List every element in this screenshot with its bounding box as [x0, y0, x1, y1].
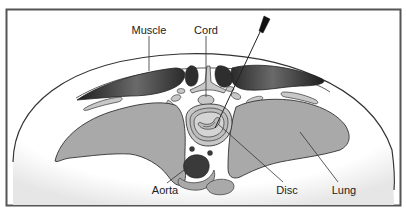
- aorta: [184, 155, 210, 178]
- label-disc: Disc: [276, 184, 298, 196]
- label-aorta: Aorta: [152, 184, 179, 196]
- cross-section-diagram: Muscle Cord Aorta Disc Lung: [0, 0, 406, 212]
- rib-fragment: [177, 89, 185, 94]
- intervertebral-disc: [186, 104, 232, 146]
- label-muscle: Muscle: [132, 24, 167, 36]
- esophagus: [207, 179, 235, 195]
- label-lung: Lung: [332, 184, 356, 196]
- vessel-dot: [208, 151, 213, 156]
- paraspinal-left: [185, 66, 198, 86]
- vessel-dot: [190, 147, 195, 152]
- label-cord: Cord: [194, 24, 218, 36]
